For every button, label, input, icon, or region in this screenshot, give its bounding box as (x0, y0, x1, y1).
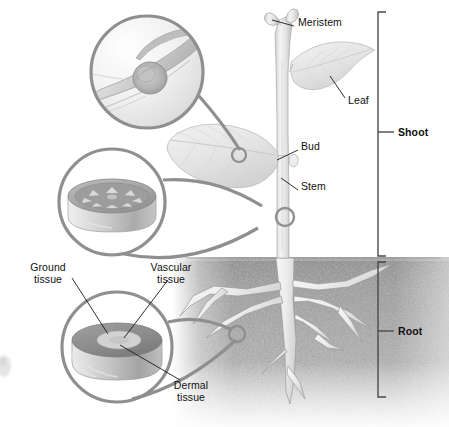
plant-anatomy-figure: Meristem Leaf Bud Stem Shoot Root Ground… (0, 0, 449, 427)
label-meristem: Meristem (298, 16, 342, 28)
label-root: Root (398, 325, 422, 337)
label-bud: Bud (301, 140, 320, 152)
label-dermal-tissue: Dermal tissue (158, 379, 224, 403)
plant-illustration (0, 0, 449, 427)
root-disc (72, 323, 162, 380)
label-leaf: Leaf (348, 94, 369, 106)
label-shoot: Shoot (398, 126, 428, 138)
upper-leaf (289, 42, 375, 90)
label-vascular-tissue: Vascular tissue (136, 261, 206, 285)
shoot-bracket (378, 12, 394, 256)
label-stem: Stem (301, 180, 326, 192)
stem-disc (68, 179, 156, 232)
bud (289, 154, 298, 167)
label-ground-tissue: Ground tissue (14, 261, 82, 285)
scan-artifact (0, 355, 11, 377)
